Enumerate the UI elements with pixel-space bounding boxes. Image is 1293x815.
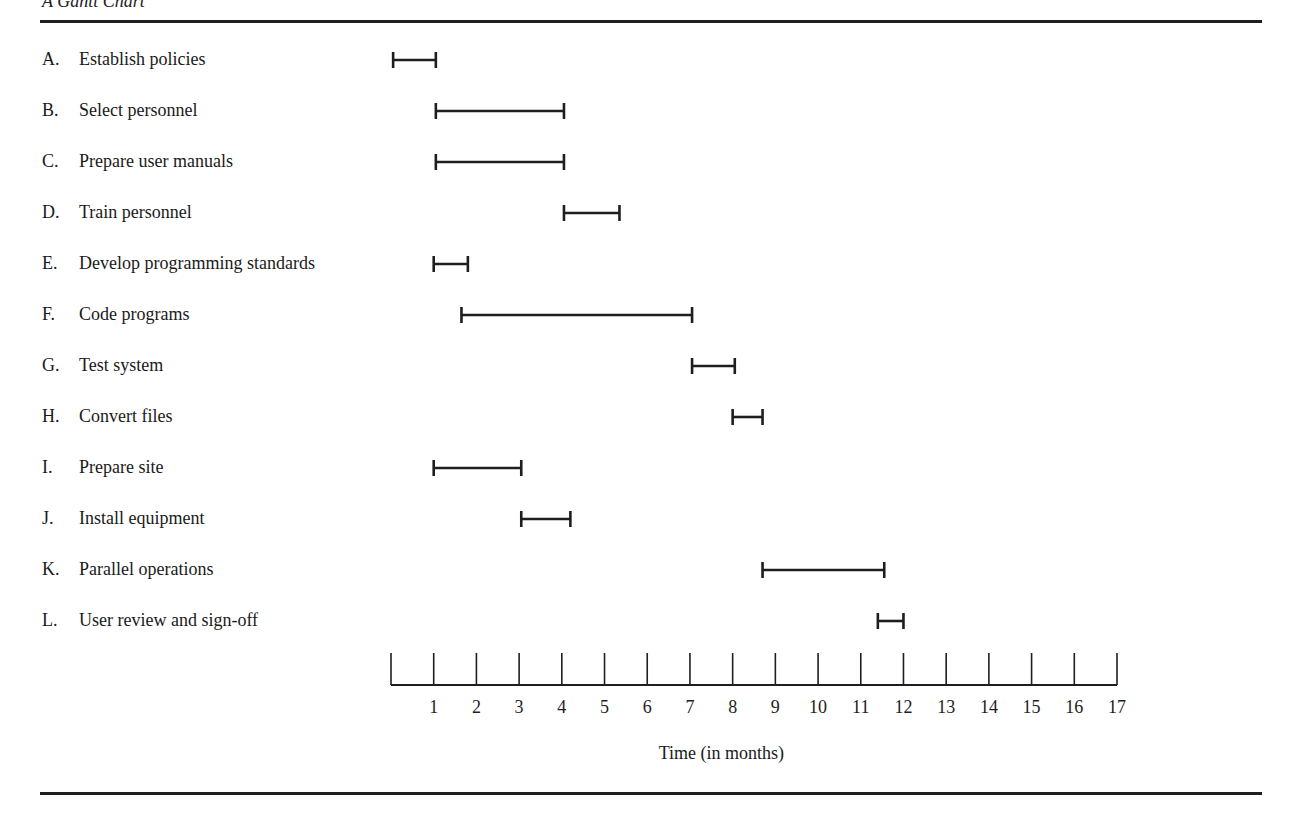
x-tick-label: 7 [685,697,694,717]
task-bar [461,307,692,323]
task-bar [436,154,564,170]
task-bar [733,409,763,425]
x-tick-label: 1 [429,697,438,717]
x-tick-label: 3 [515,697,524,717]
x-tick-label: 13 [937,697,955,717]
task-bar [763,562,885,578]
x-tick-label: 8 [728,697,737,717]
task-bars [393,52,903,629]
x-axis: 1234567891011121314151617 [391,653,1126,717]
task-bar [878,613,904,629]
bottom-rule [40,792,1262,795]
task-bar [564,205,620,221]
x-tick-label: 14 [980,697,998,717]
x-tick-label: 12 [894,697,912,717]
x-tick-label: 4 [557,697,566,717]
x-tick-label: 9 [771,697,780,717]
x-tick-label: 5 [600,697,609,717]
x-tick-label: 6 [643,697,652,717]
x-tick-label: 2 [472,697,481,717]
task-bar [434,256,468,272]
x-axis-label: Time (in months) [521,743,921,764]
x-tick-label: 11 [852,697,869,717]
x-tick-label: 15 [1023,697,1041,717]
gantt-plot: 1234567891011121314151617 [0,0,1293,815]
x-tick-label: 16 [1065,697,1083,717]
x-tick-label: 17 [1108,697,1126,717]
task-bar [436,103,564,119]
task-bar [434,460,522,476]
task-bar [692,358,735,374]
task-bar [393,52,436,68]
x-tick-label: 10 [809,697,827,717]
task-bar [521,511,570,527]
